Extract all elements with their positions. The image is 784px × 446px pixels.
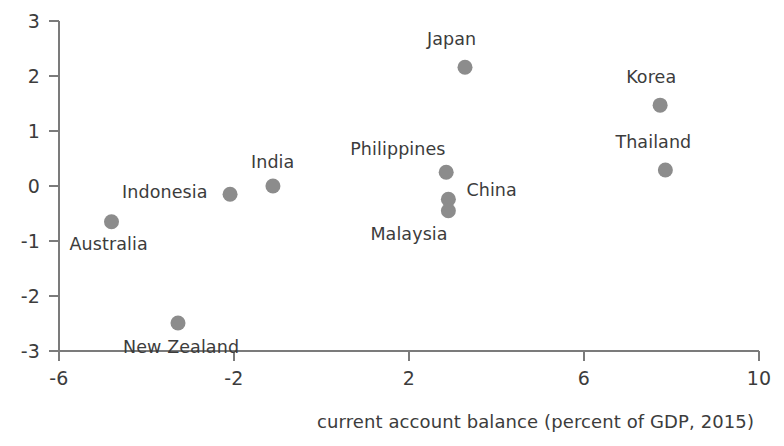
x-tick-label: 6 — [578, 367, 590, 389]
scatter-chart: -6-22610 -3-2-10123 AustraliaNew Zealand… — [0, 0, 784, 446]
y-tick-label: -3 — [21, 340, 40, 362]
data-point-label: Malaysia — [370, 224, 447, 244]
data-point-label: Thailand — [614, 132, 691, 152]
data-point-label: Philippines — [350, 139, 445, 159]
data-point-label: India — [251, 152, 294, 172]
chart-canvas: -6-22610 -3-2-10123 AustraliaNew Zealand… — [0, 0, 784, 446]
y-tick-label: -2 — [21, 285, 40, 307]
data-point — [439, 165, 454, 180]
x-tick-label: 2 — [403, 367, 415, 389]
data-point-label: Indonesia — [122, 182, 208, 202]
data-point-label: Australia — [70, 234, 148, 254]
y-tick-label: 1 — [28, 120, 40, 142]
point-labels-group: AustraliaNew ZealandIndonesiaIndiaPhilip… — [70, 29, 692, 357]
x-axis-title: current account balance (percent of GDP,… — [317, 411, 754, 432]
data-point — [653, 98, 668, 113]
data-point-label: Korea — [626, 67, 676, 87]
y-tick-label: 3 — [28, 10, 40, 32]
x-tick-label: 10 — [747, 367, 772, 389]
data-point — [458, 60, 473, 75]
data-point-label: China — [466, 180, 517, 200]
data-point — [104, 214, 119, 229]
data-point — [658, 163, 673, 178]
x-tick-label: -6 — [49, 367, 68, 389]
data-point — [171, 315, 186, 330]
data-point — [265, 179, 280, 194]
y-tick-label: -1 — [21, 230, 40, 252]
y-tick-label: 2 — [28, 65, 40, 87]
data-point-label: Japan — [426, 29, 476, 49]
y-axis-ticks: -3-2-10123 — [21, 10, 59, 362]
data-point — [223, 187, 238, 202]
x-tick-label: -2 — [224, 367, 243, 389]
data-point — [441, 203, 456, 218]
data-point-label: New Zealand — [123, 337, 239, 357]
y-tick-label: 0 — [28, 175, 40, 197]
